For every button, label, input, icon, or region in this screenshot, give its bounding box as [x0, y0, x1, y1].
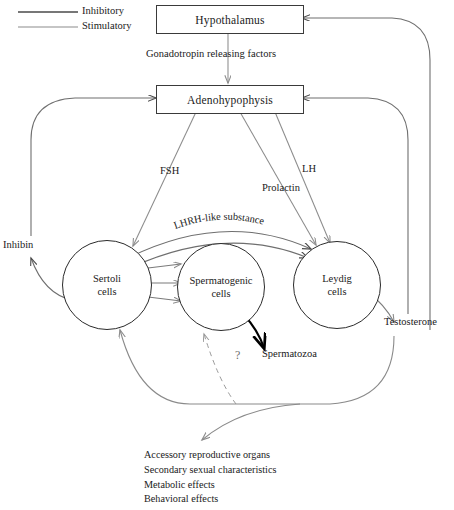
edge-question-feedback — [204, 334, 236, 404]
edge-label-spermatozoa: Spermatozoa — [262, 348, 317, 359]
edge-testosterone-loop-bottom — [120, 330, 394, 404]
edge-label-lh: LH — [302, 163, 316, 174]
node-spermatogenic-cells-line1: Spermatogenic — [190, 274, 253, 287]
effects-list-item: Secondary sexual characteristics — [144, 463, 276, 478]
node-adenohypophysis[interactable]: Adenohypophysis — [156, 85, 304, 114]
node-leydig-cells[interactable]: Leydig cells — [293, 241, 381, 329]
node-spermatogenic-cells-line2: cells — [211, 287, 230, 300]
legend-label-inhibitory: Inhibitory — [82, 5, 124, 16]
edge-label-inhibin: Inhibin — [3, 239, 33, 250]
edge-lh — [275, 112, 330, 243]
edge-fsh — [133, 112, 196, 246]
effects-list-item: Metabolic effects — [144, 478, 276, 493]
edge-label-fsh: FSH — [160, 165, 179, 176]
effects-list-item: Behavioral effects — [144, 492, 276, 507]
effects-list-item: Accessory reproductive organs — [144, 448, 276, 463]
node-sertoli-cells[interactable]: Sertoli cells — [62, 240, 152, 330]
effects-list: Accessory reproductive organs Secondary … — [144, 448, 276, 507]
edge-sertoli-sperm-3 — [148, 297, 181, 301]
edge-inhibin-feedback — [31, 98, 156, 236]
node-sertoli-cells-line2: cells — [97, 285, 116, 298]
edge-label-gnrh: Gonadotropin releasing factors — [146, 48, 276, 59]
node-leydig-cells-line2: cells — [327, 285, 346, 298]
node-adenohypophysis-label: Adenohypophysis — [187, 94, 273, 106]
node-hypothalamus[interactable]: Hypothalamus — [156, 5, 304, 34]
legend-label-stimulatory: Stimulatory — [82, 20, 132, 31]
node-leydig-cells-line1: Leydig — [322, 272, 352, 285]
edge-testosterone-to-effects — [202, 404, 300, 440]
node-spermatogenic-cells[interactable]: Spermatogenic cells — [177, 243, 265, 331]
edge-sertoli-sperm-1 — [148, 264, 181, 268]
node-hypothalamus-label: Hypothalamus — [195, 14, 264, 26]
edge-prolactin — [240, 112, 316, 245]
diagram-canvas: LHRH-like substance Inhibitory Stimulato… — [0, 0, 454, 510]
edge-label-question: ? — [235, 348, 240, 363]
edge-label-prolactin: Prolactin — [262, 182, 300, 193]
edge-label-testosterone: Testosterone — [384, 316, 437, 327]
node-sertoli-cells-line1: Sertoli — [93, 272, 121, 285]
